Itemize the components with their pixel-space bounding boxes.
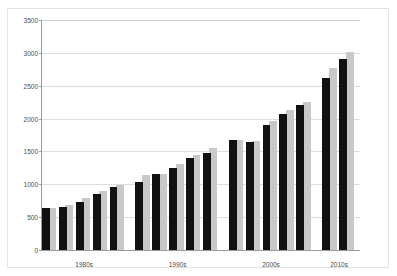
y-tick-label-2500: 2500 <box>24 82 38 89</box>
x-axis-label-1990s: 1990s <box>169 261 187 268</box>
y-tick-label-3500: 3500 <box>24 17 38 24</box>
x-axis-label-1980s: 1980s <box>75 261 93 268</box>
plot-wrapper: 0500100015002000250030003500 1980s1990s2… <box>8 9 390 269</box>
clipped-caption-text <box>0 0 397 7</box>
chart-frame: 0500100015002000250030003500 1980s1990s2… <box>7 8 389 268</box>
x-axis-label-2000s: 2000s <box>262 261 280 268</box>
y-tick-label-1000: 1000 <box>24 181 38 188</box>
x-axis-labels: 1980s1990s2000s2010s <box>41 9 359 269</box>
x-axis-label-2010s: 2010s <box>330 261 348 268</box>
y-tick-label-500: 500 <box>27 214 38 221</box>
y-tick-label-1500: 1500 <box>24 148 38 155</box>
y-tick-label-0: 0 <box>34 247 38 254</box>
y-tick-label-3000: 3000 <box>24 49 38 56</box>
y-tick-label-2000: 2000 <box>24 115 38 122</box>
